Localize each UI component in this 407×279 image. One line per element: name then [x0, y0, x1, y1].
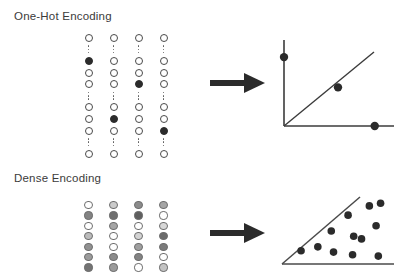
- data-point: [372, 222, 380, 230]
- one-hot-active-cell: [76, 55, 101, 67]
- open-circle-icon: [110, 80, 118, 88]
- vertical-ellipsis-icon: [163, 138, 165, 146]
- one-hot-section-title: One-Hot Encoding: [14, 10, 112, 22]
- open-circle-icon: [135, 103, 143, 111]
- one-hot-scatter-plot: [272, 36, 400, 136]
- value-circle-icon: [134, 222, 142, 230]
- dense-cell: [126, 242, 151, 252]
- dense-cell: [101, 252, 126, 262]
- vertical-ellipsis-icon: [76, 44, 101, 56]
- vertical-ellipsis-icon: [151, 90, 176, 102]
- dense-cell: [101, 221, 126, 231]
- one-hot-zero-cell: [126, 125, 151, 137]
- dense-cell: [126, 200, 151, 210]
- vertical-ellipsis-icon: [126, 44, 151, 56]
- dense-cell: [151, 210, 176, 220]
- data-point: [330, 248, 338, 256]
- one-hot-zero-cell: [76, 102, 101, 114]
- data-point: [334, 83, 342, 91]
- dense-column: [151, 200, 176, 273]
- value-circle-icon: [109, 243, 117, 251]
- open-circle-icon: [160, 150, 168, 158]
- one-hot-zero-cell: [151, 67, 176, 79]
- one-hot-zero-cell: [126, 113, 151, 125]
- dense-cell: [101, 200, 126, 210]
- one-hot-column: [101, 32, 126, 160]
- open-circle-icon: [135, 69, 143, 77]
- value-circle-icon: [109, 232, 117, 240]
- vertical-ellipsis-icon: [76, 136, 101, 148]
- one-hot-column: [126, 32, 151, 160]
- open-circle-icon: [160, 34, 168, 42]
- one-hot-zero-cell: [151, 78, 176, 90]
- value-circle-icon: [159, 263, 167, 271]
- one-hot-zero-cell: [126, 55, 151, 67]
- one-hot-zero-cell: [101, 78, 126, 90]
- dense-cell: [101, 242, 126, 252]
- value-circle-icon: [84, 201, 92, 209]
- open-circle-icon: [110, 69, 118, 77]
- value-circle-icon: [109, 263, 117, 271]
- one-hot-column: [76, 32, 101, 160]
- dense-cell: [101, 231, 126, 241]
- vertical-ellipsis-icon: [163, 45, 165, 53]
- data-point: [297, 247, 305, 255]
- open-circle-icon: [85, 80, 93, 88]
- vertical-ellipsis-icon: [88, 45, 90, 53]
- value-circle-icon: [84, 232, 92, 240]
- vertical-ellipsis-icon: [138, 45, 140, 53]
- value-circle-icon: [84, 263, 92, 271]
- one-hot-zero-cell: [76, 32, 101, 44]
- value-circle-icon: [159, 243, 167, 251]
- dense-cell: [76, 221, 101, 231]
- dense-column: [101, 200, 126, 273]
- open-circle-icon: [135, 34, 143, 42]
- value-circle-icon: [84, 253, 92, 261]
- one-hot-zero-cell: [101, 125, 126, 137]
- value-circle-icon: [159, 211, 167, 219]
- vertical-ellipsis-icon: [101, 44, 126, 56]
- dense-cell: [101, 262, 126, 272]
- open-circle-icon: [85, 103, 93, 111]
- filled-circle-icon: [110, 115, 118, 123]
- vertical-ellipsis-icon: [151, 44, 176, 56]
- data-point: [327, 227, 335, 235]
- dense-cell: [76, 252, 101, 262]
- data-point: [350, 232, 358, 240]
- dense-cell: [151, 200, 176, 210]
- value-circle-icon: [134, 232, 142, 240]
- vertical-ellipsis-icon: [76, 90, 101, 102]
- open-circle-icon: [160, 80, 168, 88]
- value-circle-icon: [109, 201, 117, 209]
- open-circle-icon: [85, 34, 93, 42]
- open-circle-icon: [160, 69, 168, 77]
- open-circle-icon: [160, 57, 168, 65]
- data-point: [349, 251, 357, 259]
- data-point: [358, 235, 366, 243]
- vertical-ellipsis-icon: [151, 136, 176, 148]
- dense-section-title: Dense Encoding: [14, 172, 101, 184]
- one-hot-zero-cell: [151, 55, 176, 67]
- value-circle-icon: [109, 211, 117, 219]
- one-hot-zero-cell: [101, 32, 126, 44]
- dense-cell: [76, 262, 101, 272]
- value-circle-icon: [134, 253, 142, 261]
- plot-data-points: [297, 199, 384, 259]
- one-hot-zero-cell: [101, 55, 126, 67]
- dense-cell: [126, 262, 151, 272]
- one-hot-zero-cell: [126, 148, 151, 160]
- dense-cell: [76, 242, 101, 252]
- dense-cell: [151, 252, 176, 262]
- vertical-ellipsis-icon: [138, 92, 140, 100]
- open-circle-icon: [160, 115, 168, 123]
- open-circle-icon: [110, 103, 118, 111]
- filled-circle-icon: [160, 127, 168, 135]
- open-circle-icon: [110, 34, 118, 42]
- open-circle-icon: [85, 150, 93, 158]
- one-hot-zero-cell: [76, 125, 101, 137]
- one-hot-zero-cell: [101, 148, 126, 160]
- encoding-comparison-figure: One-Hot Encoding Dense Encoding: [0, 0, 407, 279]
- vertical-ellipsis-icon: [101, 136, 126, 148]
- value-circle-icon: [134, 243, 142, 251]
- vertical-ellipsis-icon: [88, 138, 90, 146]
